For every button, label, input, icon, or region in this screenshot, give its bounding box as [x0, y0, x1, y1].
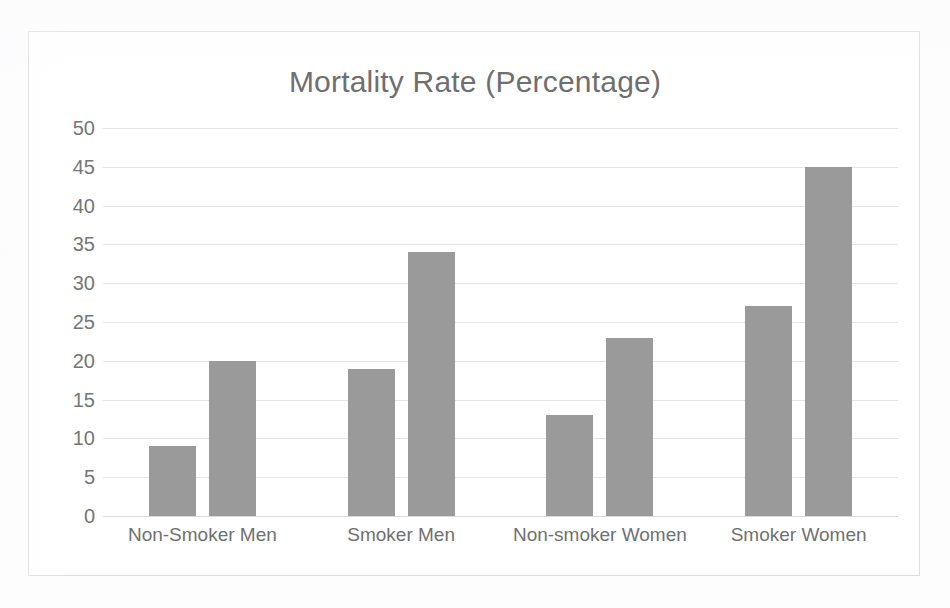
y-axis-tick-labels: 50454035302520151050 [45, 128, 95, 516]
bar [408, 252, 455, 516]
gridline [103, 128, 898, 129]
chart-title: Mortality Rate (Percentage) [29, 65, 921, 99]
bar [805, 167, 852, 516]
gridline [103, 244, 898, 245]
y-axis-tick-label: 5 [51, 466, 95, 489]
y-axis-tick-label: 50 [51, 117, 95, 140]
y-axis-tick-label: 30 [51, 272, 95, 295]
plot-area [103, 128, 898, 516]
y-axis-tick-label: 0 [51, 505, 95, 528]
y-axis-tick-label: 15 [51, 388, 95, 411]
bar [348, 369, 395, 516]
gridline [103, 167, 898, 168]
gridline [103, 206, 898, 207]
scanned-page-background: Mortality Rate (Percentage) 504540353025… [0, 0, 950, 608]
y-axis-tick-label: 20 [51, 349, 95, 372]
y-axis-tick-label: 40 [51, 194, 95, 217]
chart-frame: Mortality Rate (Percentage) 504540353025… [28, 31, 920, 576]
y-axis-tick-label: 35 [51, 233, 95, 256]
bar [606, 338, 653, 516]
x-axis-category-label: Smoker Women [731, 524, 867, 546]
y-axis-tick-label: 25 [51, 311, 95, 334]
x-axis-category-label: Non-Smoker Men [128, 524, 277, 546]
x-axis-category-label: Smoker Men [347, 524, 455, 546]
bar [546, 415, 593, 516]
bar [209, 361, 256, 516]
gridline [103, 516, 898, 517]
y-axis-tick-label: 45 [51, 155, 95, 178]
x-axis-category-label: Non-smoker Women [513, 524, 687, 546]
x-axis-category-labels: Non-Smoker MenSmoker MenNon-smoker Women… [103, 524, 898, 558]
gridline [103, 283, 898, 284]
y-axis-tick-label: 10 [51, 427, 95, 450]
bar [149, 446, 196, 516]
bar [745, 306, 792, 516]
